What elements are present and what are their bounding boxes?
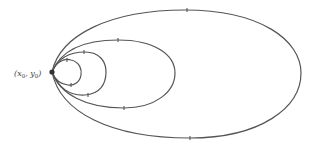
orbit-diagram: (x0, y0)	[0, 0, 314, 146]
point-label: (x0, y0)	[14, 69, 41, 79]
orbit-3	[52, 40, 175, 108]
orbit-4	[52, 10, 301, 138]
critical-point	[49, 69, 54, 74]
